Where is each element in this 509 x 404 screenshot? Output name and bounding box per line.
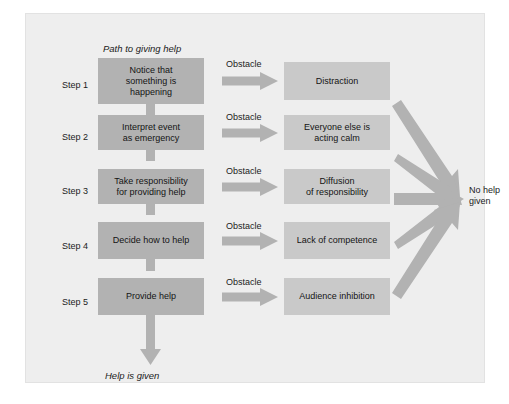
obstacle-label-4: Obstacle [226, 221, 262, 231]
obstacle-arrow-2 [222, 124, 278, 142]
help-given-arrow [140, 315, 161, 365]
step-box-3-line-2: for providing help [114, 187, 188, 198]
obstacle-label-1: Obstacle [226, 59, 262, 69]
no-help-given-line-2: given [469, 196, 500, 207]
obstacle-box-4: Lack of competence [284, 222, 390, 259]
obstacle-arrow-1 [222, 72, 278, 90]
obstacle-box-2-line-2: acting calm [304, 133, 370, 144]
obstacle-label-2: Obstacle [226, 112, 262, 122]
step-connector-1-2 [146, 104, 155, 115]
step-box-2: Interpret event as emergency [98, 115, 204, 150]
step-box-5-line-1: Provide help [126, 291, 176, 302]
step-connector-2-3 [146, 150, 155, 161]
obstacle-arrow-3 [222, 178, 278, 196]
obstacle-box-1: Distraction [284, 62, 390, 100]
obstacle-box-1-line-1: Distraction [316, 76, 359, 87]
step-box-1: Notice that something is happening [98, 58, 204, 104]
step-box-1-line-1: Notice that [126, 65, 177, 76]
obstacle-box-3: Diffusion of responsibility [284, 169, 390, 204]
obstacle-label-5: Obstacle [226, 277, 262, 287]
step-box-3-line-1: Take responsibility [114, 176, 188, 187]
step-box-4: Decide how to help [98, 222, 204, 259]
step-box-1-line-2: something is [126, 76, 177, 87]
obstacle-box-5: Audience inhibition [284, 278, 390, 315]
step-box-4-line-1: Decide how to help [113, 235, 190, 246]
path-title: Path to giving help [103, 43, 181, 54]
step-box-5: Provide help [98, 278, 204, 315]
step-connector-3-4 [146, 204, 155, 215]
obstacle-box-2: Everyone else is acting calm [284, 115, 390, 150]
no-help-given-label: No help given [469, 185, 500, 207]
diagram-root: Path to giving help Help is given Step 1… [0, 0, 509, 404]
step-box-3: Take responsibility for providing help [98, 169, 204, 204]
step-box-2-line-2: as emergency [122, 133, 180, 144]
obstacle-box-3-line-1: Diffusion [306, 176, 368, 187]
obstacle-label-3: Obstacle [226, 166, 262, 176]
diagram-frame: Path to giving help Help is given Step 1… [26, 14, 484, 382]
obstacle-box-2-line-1: Everyone else is [304, 122, 370, 133]
obstacle-box-5-line-1: Audience inhibition [299, 291, 375, 302]
obstacle-box-4-line-1: Lack of competence [297, 235, 378, 246]
no-help-given-line-1: No help [469, 185, 500, 196]
no-help-arrow-5 [390, 202, 468, 306]
obstacle-arrow-5 [222, 288, 278, 306]
step-box-1-line-3: happening [126, 87, 177, 98]
obstacle-box-3-line-2: of responsibility [306, 187, 368, 198]
step-box-2-line-1: Interpret event [122, 122, 180, 133]
obstacle-arrow-4 [222, 232, 278, 250]
step-connector-4-5 [146, 259, 155, 271]
help-given-title: Help is given [105, 370, 159, 381]
